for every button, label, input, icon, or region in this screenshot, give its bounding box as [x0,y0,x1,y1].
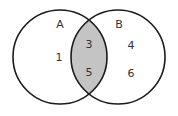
intersection-element: 5 [86,66,93,79]
a-only-element: 1 [56,51,63,64]
intersection-element: 3 [86,38,93,51]
venn-diagram: A B 1 3 5 4 6 [0,0,178,116]
b-only-element: 6 [128,67,135,80]
set-b-label: B [115,18,123,31]
b-only-element: 4 [128,39,135,52]
set-a-label: A [56,18,64,31]
